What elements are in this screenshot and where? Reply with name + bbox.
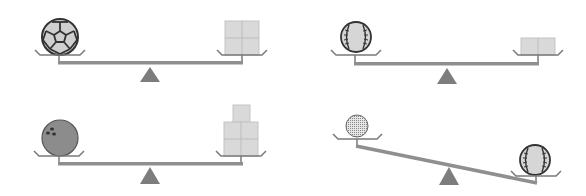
scale-3	[34, 105, 266, 184]
baseball-icon	[341, 22, 371, 52]
scale-1	[35, 19, 267, 82]
beam	[58, 61, 243, 65]
scale-2	[331, 22, 563, 84]
fulcrum-icon	[437, 68, 457, 84]
fulcrum-icon	[140, 167, 160, 184]
cubes-2	[521, 38, 555, 55]
fulcrum-icon	[439, 167, 459, 185]
soccer-ball-icon	[42, 19, 78, 55]
scale-4	[333, 115, 561, 185]
baseball-icon	[520, 145, 550, 175]
balance-scales-figure	[0, 0, 586, 196]
cubes-4	[225, 21, 259, 55]
beam	[58, 162, 243, 166]
fulcrum-icon	[140, 67, 160, 82]
beam	[354, 62, 539, 66]
bowling-ball-icon	[42, 120, 78, 156]
cubes-5	[224, 105, 258, 156]
golf-ball-icon	[346, 115, 368, 137]
